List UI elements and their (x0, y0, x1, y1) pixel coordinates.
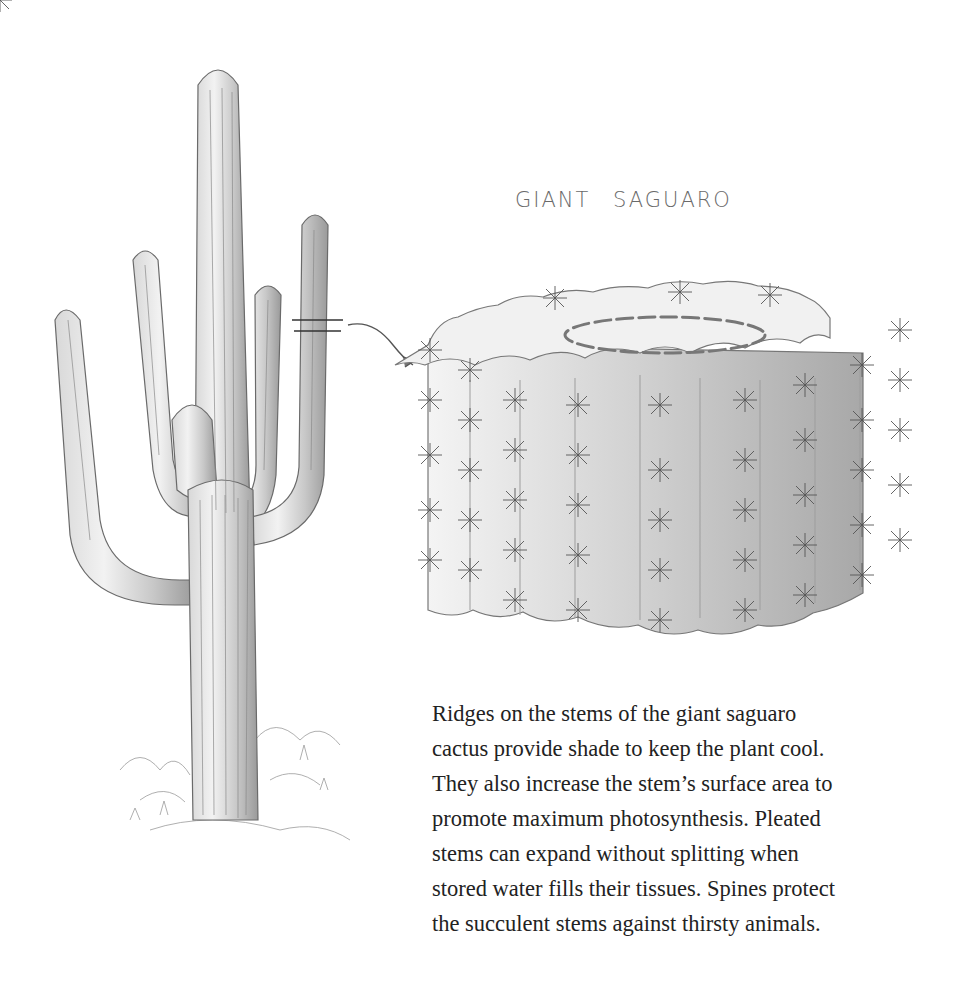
diagram-title: GIANT SAGUARO (515, 188, 732, 212)
caption-line: stored water fills their tissues. Spines… (432, 871, 922, 906)
spines (0, 0, 12, 12)
caption-line: stems can expand without splitting when (432, 836, 922, 871)
caption-text: Ridges on the stems of the giant saguaro… (432, 696, 922, 941)
stem-cross-section-illustration (0, 0, 912, 634)
caption-line: promote maximum photosynthesis. Pleated (432, 801, 922, 836)
saguaro-cactus-illustration (55, 70, 350, 840)
caption-line: They also increase the stem’s surface ar… (432, 766, 922, 801)
caption-line: cactus provide shade to keep the plant c… (432, 731, 922, 766)
caption-line: the succulent stems against thirsty anim… (432, 906, 922, 941)
caption-line: Ridges on the stems of the giant saguaro (432, 696, 922, 731)
